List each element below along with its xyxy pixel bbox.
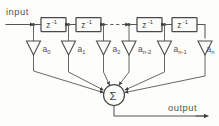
delay-block-0: z -1 (41, 18, 66, 32)
coefficient-label-5-subscript: n (211, 49, 214, 55)
coefficient-amplifier-5: a n (198, 41, 215, 55)
coefficient-label-4-subscript: n-1 (178, 49, 187, 55)
delay-block-3: z -1 (172, 18, 197, 32)
summing-junction: Σ (104, 85, 125, 106)
coefficient-label-2-subscript: 2 (117, 49, 120, 55)
coefficient-amplifier-2: a 2 (97, 41, 121, 55)
sigma-symbol: Σ (110, 90, 117, 102)
coefficient-label-3-subscript: n-2 (143, 49, 152, 55)
diagram-canvas: input z -1 z -1 (0, 0, 219, 126)
delay-block-3-base: z (177, 21, 181, 30)
coefficient-label-1-subscript: 1 (82, 49, 85, 55)
sum-branch-5 (125, 55, 205, 93)
sum-branch-2 (104, 55, 110, 85)
sum-branch-1 (69, 55, 104, 90)
fir-filter-diagram: input z -1 z -1 (0, 0, 219, 126)
coefficient-amplifier-0: a 0 (27, 41, 52, 55)
delay-block-0-base: z (46, 21, 50, 30)
sum-branch-3 (119, 55, 129, 85)
delay-block-2: z -1 (137, 18, 162, 32)
delay-block-1-exponent: -1 (87, 19, 92, 25)
coefficient-amplifier-1: a 1 (62, 41, 86, 55)
delay-block-3-exponent: -1 (183, 19, 188, 25)
delay-block-1-base: z (81, 21, 85, 30)
delay-block-2-exponent: -1 (148, 19, 153, 25)
input-label: input (6, 6, 29, 17)
coefficient-amplifier-4: a n-1 (158, 41, 187, 55)
output-label: output (168, 102, 197, 113)
coefficient-label-0-subscript: 0 (47, 49, 51, 55)
coefficient-amplifier-3: a n-2 (122, 41, 151, 55)
delay-block-2-base: z (142, 21, 146, 30)
delay-block-0-exponent: -1 (52, 19, 57, 25)
tap-node-5-wire (197, 25, 205, 39)
sum-branch-4 (125, 55, 165, 90)
delay-block-1: z -1 (76, 18, 101, 32)
